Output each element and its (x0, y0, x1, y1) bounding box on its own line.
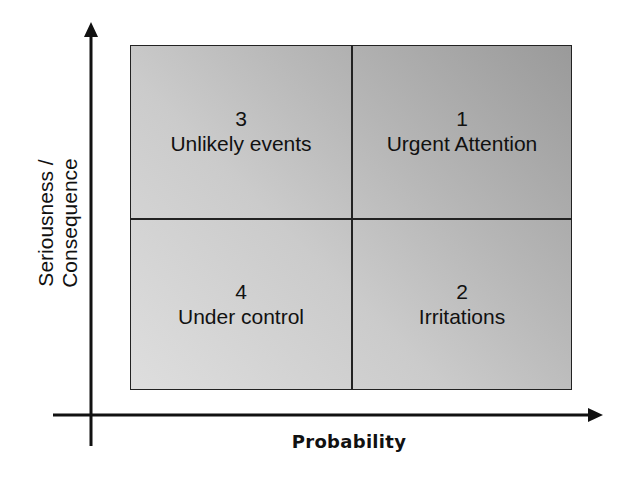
quadrant-urgent-attention: 1 Urgent Attention (352, 46, 572, 218)
x-axis-label: Probability (292, 431, 407, 452)
risk-matrix-diagram: Seriousness / Consequence 3 Unlikely eve… (0, 0, 625, 480)
quadrant-unlikely-events: 3 Unlikely events (131, 46, 351, 218)
y-axis-label: Seriousness / Consequence (34, 133, 82, 313)
y-axis-label-line1: Seriousness / (34, 133, 58, 313)
x-axis-arrow-icon (588, 408, 603, 422)
quadrant-label: Unlikely events (170, 131, 311, 157)
quadrant-under-control: 4 Under control (131, 220, 351, 390)
quadrant-number: 1 (456, 107, 468, 131)
quadrant-matrix: 3 Unlikely events 1 Urgent Attention 4 U… (130, 45, 572, 390)
quadrant-number: 3 (235, 107, 247, 131)
quadrant-label: Irritations (419, 304, 505, 330)
quadrant-label: Urgent Attention (387, 131, 538, 157)
y-axis-label-line2: Consequence (58, 133, 82, 313)
quadrant-number: 2 (456, 280, 468, 304)
quadrant-label: Under control (178, 304, 304, 330)
quadrant-irritations: 2 Irritations (352, 220, 572, 390)
y-axis-arrow-icon (84, 22, 98, 37)
quadrant-number: 4 (235, 280, 247, 304)
